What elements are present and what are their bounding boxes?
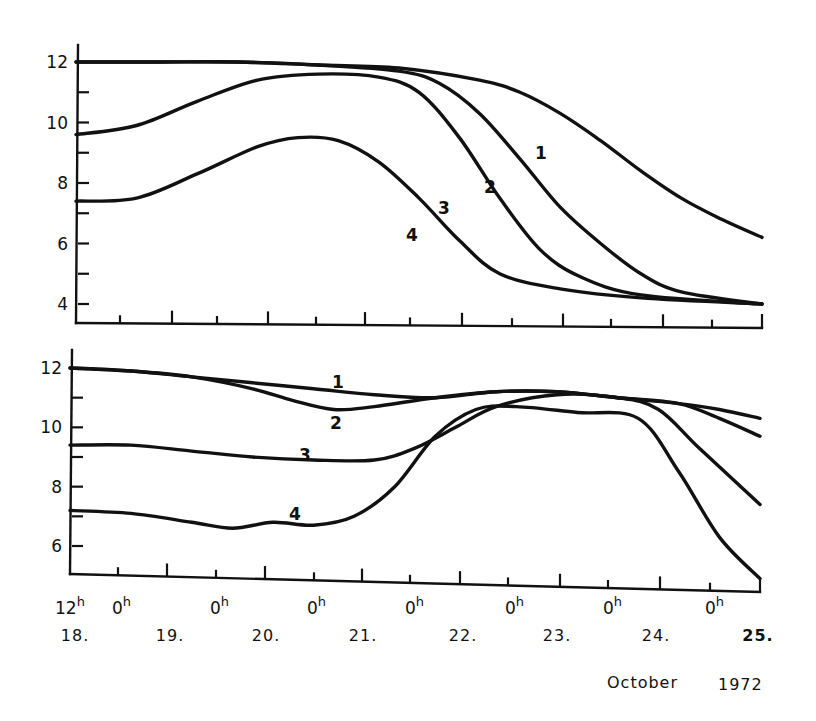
y-tick-label: 8 — [57, 173, 68, 193]
curve-label-4: 4 — [289, 504, 301, 524]
hour-label: 0h — [705, 594, 724, 618]
x-axis-line — [76, 323, 762, 328]
hour-label: 0h — [112, 594, 131, 618]
day-label: 19. — [156, 626, 184, 645]
figure: 46810121234 6810121234 12h0h0h0h0h0h0h0h… — [0, 0, 816, 721]
x-axis-line — [70, 574, 760, 592]
curve-label-3: 3 — [438, 198, 450, 218]
y-tick-label: 6 — [57, 234, 68, 254]
lower-panel: 6810121234 — [40, 350, 760, 592]
curve-label-3: 3 — [299, 445, 311, 465]
y-tick-label: 10 — [46, 113, 68, 133]
hour-label: 0h — [210, 594, 229, 618]
hour-label: 0h — [405, 594, 424, 618]
x-axis-labels: 12h0h0h0h0h0h0h0h18.19.20.21.22.23.24.25… — [55, 594, 774, 645]
curve-1 — [76, 62, 762, 238]
y-tick-label: 10 — [40, 417, 62, 437]
caption-year: 1972 — [718, 675, 763, 694]
caption-month: October — [607, 673, 678, 692]
upper-panel: 46810121234 — [46, 45, 762, 328]
y-tick-label: 6 — [51, 536, 62, 556]
hour-label: 0h — [307, 594, 326, 618]
day-label: 24. — [642, 626, 670, 645]
day-label: 23. — [543, 626, 571, 645]
curve-label-4: 4 — [406, 225, 418, 245]
hour-label: 0h — [505, 594, 524, 618]
y-tick-label: 12 — [46, 52, 68, 72]
y-tick-label: 8 — [51, 477, 62, 497]
curve-label-1: 1 — [332, 372, 344, 392]
hour-label: 12h — [55, 594, 85, 618]
day-label: 25. — [742, 626, 773, 645]
y-axis-line — [70, 350, 72, 574]
curve-2 — [70, 368, 760, 436]
y-tick-label: 12 — [40, 358, 62, 378]
day-label: 22. — [449, 626, 477, 645]
curve-4 — [70, 406, 760, 579]
curve-3 — [76, 74, 762, 304]
day-label: 20. — [252, 626, 280, 645]
curve-3 — [70, 394, 760, 504]
day-label: 18. — [61, 626, 89, 645]
hour-label: 0h — [603, 594, 622, 618]
curve-4 — [76, 137, 762, 304]
day-label: 21. — [349, 626, 377, 645]
curve-label-1: 1 — [535, 143, 547, 163]
curve-label-2: 2 — [330, 413, 342, 433]
y-tick-label: 4 — [57, 294, 68, 314]
y-axis-line — [76, 45, 78, 323]
